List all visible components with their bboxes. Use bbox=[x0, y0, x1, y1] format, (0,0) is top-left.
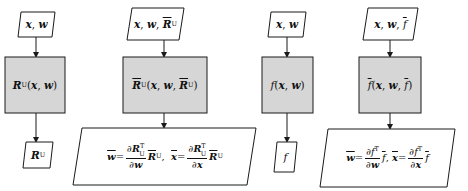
var-w: w bbox=[38, 19, 47, 30]
output-label-col2: w= ∂RTU ∂w RU, x= ∂RTU ∂x RU bbox=[78, 128, 252, 185]
comma: , bbox=[380, 19, 383, 30]
process-label-col3: f(x, w) bbox=[262, 57, 313, 113]
var-w-bar: w bbox=[346, 153, 355, 163]
fraction-df-dw: ∂fT ∂w bbox=[365, 146, 380, 169]
comma: , bbox=[156, 19, 159, 30]
var-w: w bbox=[291, 80, 300, 91]
input-label-col4: x, w, f bbox=[363, 8, 418, 40]
equals: = bbox=[116, 152, 124, 162]
numerator: ∂fT bbox=[408, 146, 423, 159]
process-label-col1: RU(x, w) bbox=[5, 57, 65, 113]
var-R-bar: R bbox=[209, 152, 217, 162]
comma: , bbox=[140, 19, 143, 30]
var-w: w bbox=[371, 159, 379, 170]
comma: , bbox=[382, 80, 385, 91]
equals: = bbox=[177, 152, 185, 162]
comma: , bbox=[162, 152, 165, 162]
comma: , bbox=[282, 19, 285, 30]
comma: , bbox=[398, 80, 401, 91]
process-label-col2: RU(x, w, RU) bbox=[123, 57, 207, 113]
sup-T: T bbox=[418, 145, 422, 153]
comma: , bbox=[32, 19, 35, 30]
rparen: ) bbox=[53, 80, 57, 91]
comma: , bbox=[396, 19, 399, 30]
sub-U: U bbox=[171, 21, 176, 28]
process-label-col4: f(x, w, f) bbox=[359, 57, 421, 113]
comma: , bbox=[37, 80, 40, 91]
var-R: R bbox=[13, 80, 22, 91]
var-R-bar: R bbox=[179, 80, 188, 91]
var-w: w bbox=[147, 19, 156, 30]
rparen: ) bbox=[194, 80, 198, 91]
numerator: ∂RTU bbox=[126, 143, 146, 159]
fraction-dR-dx: ∂RTU ∂x bbox=[187, 143, 207, 169]
var-R-bar: R bbox=[132, 80, 141, 91]
rparen: ) bbox=[300, 80, 304, 91]
denominator: ∂w bbox=[129, 159, 142, 170]
output-label-col4: w= ∂fT ∂w f, x= ∂fT ∂x f bbox=[324, 129, 451, 187]
fraction-df-dx: ∂fT ∂x bbox=[408, 146, 423, 169]
input-label-col3: x, w bbox=[268, 12, 306, 37]
fraction-dR-dw: ∂RTU ∂w bbox=[126, 143, 146, 169]
input-label-col1: x, w bbox=[18, 12, 55, 37]
var-R: R bbox=[31, 150, 40, 161]
var-w-bar: w bbox=[107, 152, 116, 162]
numerator: ∂fT bbox=[365, 146, 380, 159]
sup-T: T bbox=[375, 145, 379, 153]
var-w: w bbox=[387, 19, 396, 30]
rparen: ) bbox=[408, 80, 412, 91]
sub-U: U bbox=[40, 152, 45, 159]
input-label-col2: x, w, RU bbox=[127, 8, 184, 40]
denominator: ∂x bbox=[192, 159, 203, 170]
var-w: w bbox=[164, 80, 173, 91]
var-w: w bbox=[44, 80, 53, 91]
comma: , bbox=[386, 153, 389, 163]
sub-U: U bbox=[139, 150, 144, 158]
sub-U: U bbox=[201, 150, 206, 158]
var-w: w bbox=[134, 159, 142, 170]
output-label-col1: RU bbox=[23, 142, 53, 168]
denominator: ∂w bbox=[366, 159, 379, 170]
denominator: ∂x bbox=[410, 159, 421, 170]
equals: = bbox=[398, 153, 406, 163]
comma: , bbox=[157, 80, 160, 91]
comma: , bbox=[285, 80, 288, 91]
numerator: ∂RTU bbox=[187, 143, 207, 159]
var-x: x bbox=[197, 159, 203, 170]
var-w: w bbox=[289, 19, 298, 30]
var-f-bar: f bbox=[403, 19, 407, 30]
var-f: f bbox=[284, 152, 288, 163]
var-x: x bbox=[415, 159, 421, 170]
equals: = bbox=[355, 153, 363, 163]
var-R-bar: R bbox=[148, 152, 156, 162]
var-f-bar: f bbox=[425, 153, 429, 163]
sub-U: U bbox=[217, 153, 222, 160]
var-R-bar: R bbox=[163, 19, 172, 30]
comma: , bbox=[173, 80, 176, 91]
var-w: w bbox=[389, 80, 398, 91]
output-label-col3: f bbox=[274, 142, 297, 172]
